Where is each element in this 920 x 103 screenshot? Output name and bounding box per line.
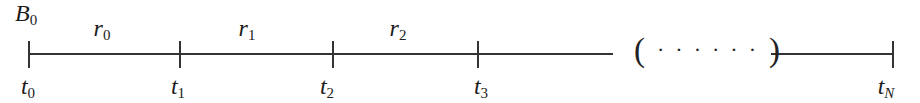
time-label-tN-subscript: N <box>884 85 894 101</box>
time-label-t1: t1 <box>171 74 185 101</box>
balance-label-B0-subscript: 0 <box>30 12 38 28</box>
tick-t0 <box>28 41 30 68</box>
balance-label-B0: B0 <box>15 1 37 28</box>
time-label-t3-subscript: 3 <box>481 85 489 101</box>
time-label-t2: t2 <box>320 74 334 101</box>
rate-label-r0: r0 <box>94 16 111 43</box>
rate-label-r2: r2 <box>390 16 407 43</box>
timeline-segment-left <box>29 53 613 55</box>
time-label-t0: t0 <box>21 74 35 101</box>
tick-t2 <box>332 41 334 68</box>
time-label-t3: t3 <box>474 74 488 101</box>
time-label-t0-subscript: 0 <box>28 85 36 101</box>
open-paren: ( <box>634 36 645 64</box>
ellipsis-dots: ······ <box>657 39 767 61</box>
rate-label-r2-subscript: 2 <box>399 27 407 43</box>
rate-label-r1: r1 <box>239 16 256 43</box>
timeline-figure: B0 r0 r1 r2 t0 t1 t2 t3 tN ( ······ ) <box>0 0 920 103</box>
rate-label-r1-subscript: 1 <box>248 27 256 43</box>
ellipsis-group: ( ······ ) <box>634 36 780 64</box>
tick-t1 <box>179 41 181 68</box>
tick-tN <box>892 41 894 68</box>
time-label-tN: tN <box>878 74 895 101</box>
tick-t3 <box>477 41 479 68</box>
close-paren: ) <box>769 36 780 64</box>
timeline-segment-right <box>771 53 894 55</box>
rate-label-r0-subscript: 0 <box>103 27 111 43</box>
time-label-t2-subscript: 2 <box>327 85 335 101</box>
time-label-t1-subscript: 1 <box>178 85 186 101</box>
